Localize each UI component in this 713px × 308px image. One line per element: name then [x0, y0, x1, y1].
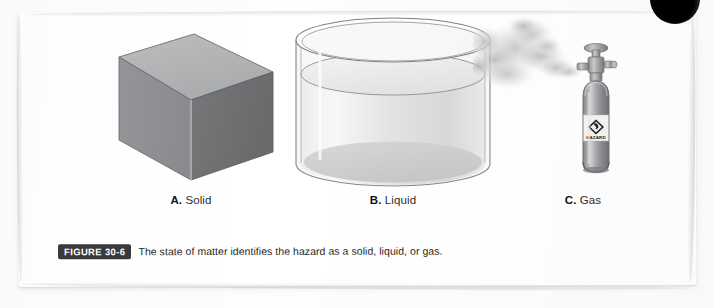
- panel-letter-liquid: B.: [370, 194, 382, 206]
- figure-panel-gas: HAZARD C. Gas: [473, 12, 693, 227]
- smoke-plume: [473, 16, 583, 89]
- hazard-label: HAZARD: [584, 115, 609, 141]
- cylinder-valve: [577, 44, 617, 82]
- figure-caption-text: The state of matter identifies the hazar…: [138, 245, 442, 258]
- panel-letter-solid: A.: [170, 194, 182, 206]
- panel-letter-gas: C.: [565, 194, 577, 206]
- gas-cylinder-illustration: HAZARD: [473, 12, 693, 188]
- panel-label-gas: C. Gas: [473, 194, 693, 206]
- figure-panels-row: A. Solid: [18, 12, 696, 227]
- panel-name-liquid: Liquid: [382, 194, 417, 206]
- gas-cylinder-icon: HAZARD: [473, 12, 693, 188]
- figure-page: A. Solid: [0, 0, 713, 308]
- figure-number-badge: FIGURE 30-6: [58, 244, 131, 259]
- panel-name-solid: Solid: [182, 194, 211, 206]
- panel-name-gas: Gas: [577, 194, 602, 206]
- figure-caption: FIGURE 30-6 The state of matter identifi…: [58, 244, 442, 259]
